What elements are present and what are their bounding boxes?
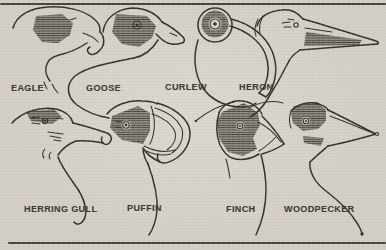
label-finch: FINCH bbox=[226, 204, 256, 214]
eagle-figure bbox=[13, 7, 104, 93]
label-goose: GOOSE bbox=[86, 83, 121, 93]
woodpecker-figure bbox=[290, 102, 379, 236]
goose-figure bbox=[68, 8, 184, 118]
label-eagle: EAGLE bbox=[11, 83, 44, 93]
label-puffin: PUFFIN bbox=[127, 203, 162, 213]
label-woodpecker: WOODPECKER bbox=[284, 204, 355, 214]
label-heron: HERON bbox=[239, 82, 274, 92]
illustration-page: EAGLE GOOSE CURLEW HERON HERRING GULL PU… bbox=[0, 0, 386, 250]
label-herring-gull: HERRING GULL bbox=[24, 204, 97, 214]
heron-eye bbox=[294, 23, 298, 27]
puffin-figure bbox=[107, 101, 190, 235]
label-curlew: CURLEW bbox=[165, 82, 207, 92]
finch-figure bbox=[217, 101, 284, 235]
